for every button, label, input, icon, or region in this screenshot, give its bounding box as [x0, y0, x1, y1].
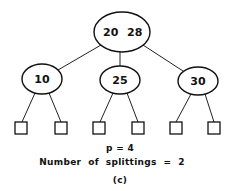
edge-25-to-leaf-3	[100, 93, 113, 122]
leaf-square-5	[170, 122, 182, 134]
leaf-square-1	[15, 122, 27, 134]
edge-30-to-leaf-6	[205, 94, 214, 122]
edge-root-to-10	[58, 45, 101, 70]
child-key-25: 25	[112, 74, 127, 87]
root-key-1: 20	[103, 26, 119, 39]
leaf-square-3	[93, 122, 105, 134]
edge-10-to-leaf-2	[49, 93, 61, 122]
edge-30-to-leaf-5	[176, 94, 191, 122]
edge-10-to-leaf-1	[22, 93, 35, 122]
edge-25-to-leaf-4	[127, 93, 138, 122]
leaf-square-6	[208, 122, 220, 134]
leaf-square-2	[55, 122, 67, 134]
figure-label: (c)	[113, 175, 127, 185]
b-tree-diagram: 20 28 10 25 30 p = 4 Number of splitting…	[0, 0, 236, 191]
splittings-caption: Number of splittings = 2	[39, 157, 185, 167]
child-key-10: 10	[34, 73, 50, 86]
order-caption: p = 4	[106, 143, 134, 153]
root-key-2: 28	[127, 26, 142, 39]
child-key-30: 30	[190, 75, 206, 88]
leaf-square-4	[132, 122, 144, 134]
edge-root-to-30	[143, 45, 183, 71]
